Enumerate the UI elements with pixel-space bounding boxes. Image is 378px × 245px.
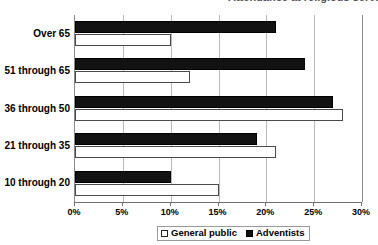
x-axis-tick-label: 0% [54,207,94,218]
bar-group [75,15,362,52]
bar-adventists [75,133,257,145]
plot-area [74,15,361,202]
bar-general-public [75,71,190,83]
bar-general-public [75,184,219,196]
chart-title-clipped: Attendance at religious services [228,0,378,4]
x-axis-tick [122,202,123,206]
x-axis-tick-label: 10% [150,207,190,218]
y-axis-category-label: 51 through 65 [2,66,70,76]
bar-group [75,90,362,127]
y-axis-category-label: 10 through 20 [2,178,70,188]
legend-label-general-public: General public [171,228,237,238]
legend-item-general-public: General public [161,228,237,238]
bar-adventists [75,96,333,108]
bar-general-public [75,146,276,158]
bar-general-public [75,34,171,46]
x-axis-tick [218,202,219,206]
x-axis-tick-label: 30% [341,207,378,218]
y-axis-category-label: 21 through 35 [2,141,70,151]
x-axis-tick-label: 5% [102,207,142,218]
y-axis-labels: Over 6551 through 6536 through 5021 thro… [0,15,70,202]
x-axis-tick [361,202,362,206]
legend-label-adventists: Adventists [256,228,305,238]
x-axis-tick-label: 15% [198,207,238,218]
x-axis-tick-label: 20% [245,207,285,218]
y-axis-category-label: 36 through 50 [2,104,70,114]
x-axis-tick [74,202,75,206]
filled-square-icon [246,230,253,237]
bar-adventists [75,171,171,183]
y-axis-category-label: Over 65 [2,29,70,39]
bar-group [75,165,362,202]
x-axis-tick-label: 25% [293,207,333,218]
x-axis-tick [313,202,314,206]
gridline [362,15,363,202]
bar-adventists [75,58,305,70]
bar-general-public [75,109,343,121]
chart-title-text: Attendance at religious services [228,0,378,3]
x-axis-tick [265,202,266,206]
bar-group [75,127,362,164]
legend-item-adventists: Adventists [246,228,305,238]
bar-group [75,52,362,89]
hollow-square-icon [161,230,168,237]
x-axis-tick [170,202,171,206]
bar-adventists [75,21,276,33]
chart-container: Attendance at religious services Over 65… [0,0,378,245]
chart-legend: General public Adventists [157,226,310,241]
